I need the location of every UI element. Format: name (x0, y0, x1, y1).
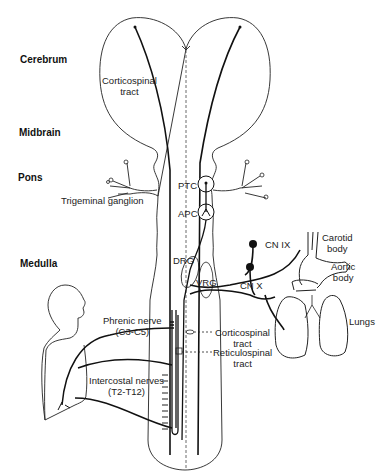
label-drg: DRG (173, 255, 194, 266)
region-midbrain: Midbrain (19, 127, 61, 138)
label-vrg: VRG (196, 277, 217, 288)
region-pons: Pons (18, 172, 42, 183)
region-cerebrum: Cerebrum (20, 54, 67, 65)
label-reticulospinal: Reticulospinal tract (213, 347, 272, 369)
label-corticospinal-lower: Corticospinal tract (215, 327, 270, 349)
label-cn-ix: CN IX (265, 239, 290, 250)
label-aortic-body: Aortic body (331, 261, 355, 283)
lung-left (275, 297, 308, 358)
label-corticospinal-upper: Corticospinal tract (102, 75, 157, 97)
label-ptc: PTC (178, 180, 197, 191)
label-lungs: Lungs (349, 316, 375, 327)
trigeminal-branch-right (213, 163, 266, 198)
lung-right (319, 295, 347, 355)
label-apc: APC (178, 208, 198, 219)
label-carotid-body: Carotid body (322, 232, 353, 254)
label-trigeminal-ganglion: Trigeminal ganglion (61, 195, 144, 206)
corticospinal-tract-right (198, 27, 240, 455)
intercostal-nerve-upper (78, 359, 172, 368)
intercostal-nerve-lower (75, 398, 172, 428)
label-phrenic-nerve: Phrenic nerve (C3-C5) (103, 315, 162, 337)
label-cn-x: CN X (240, 280, 263, 291)
label-intercostal-nerves: Intercostal nerves (T2-T12) (89, 375, 164, 397)
region-medulla: Medulla (20, 258, 57, 269)
